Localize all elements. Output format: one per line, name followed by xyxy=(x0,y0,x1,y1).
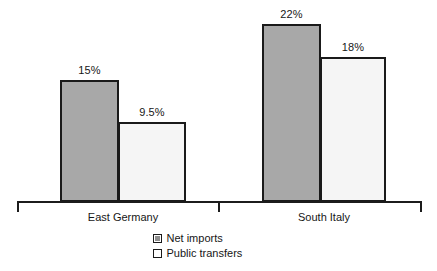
legend-item-public-transfers[interactable]: Public transfers xyxy=(153,246,285,261)
plot-area: 15% 9.5% 22% 18% East Germany South Ital… xyxy=(0,0,437,210)
gray-filled-square-icon xyxy=(153,234,162,243)
legend-label-net-imports: Net imports xyxy=(167,232,223,245)
white-hollow-square-icon xyxy=(153,249,162,258)
chart-legend: Net imports Public transfers xyxy=(0,231,437,261)
bar-chart: 15% 9.5% 22% 18% East Germany South Ital… xyxy=(0,0,437,271)
bar-value-east-germany-public-transfers: 9.5% xyxy=(118,106,186,118)
bar-value-east-germany-net-imports: 15% xyxy=(60,64,119,76)
bar-south-italy-net-imports[interactable] xyxy=(262,24,321,202)
x-axis-tick-left xyxy=(17,203,19,212)
category-label-east-germany: East Germany xyxy=(55,211,191,224)
x-axis-tick-middle xyxy=(218,203,220,212)
bars-layer xyxy=(0,0,437,202)
bar-east-germany-net-imports[interactable] xyxy=(60,80,119,202)
bar-value-south-italy-public-transfers: 18% xyxy=(320,41,386,53)
bar-east-germany-public-transfers[interactable] xyxy=(118,122,186,202)
x-axis-tick-right xyxy=(420,203,422,212)
bar-value-south-italy-net-imports: 22% xyxy=(262,8,321,20)
bar-south-italy-public-transfers[interactable] xyxy=(320,57,386,202)
category-label-south-italy: South Italy xyxy=(256,211,392,224)
legend-item-net-imports[interactable]: Net imports xyxy=(153,231,285,246)
legend-label-public-transfers: Public transfers xyxy=(167,247,243,260)
